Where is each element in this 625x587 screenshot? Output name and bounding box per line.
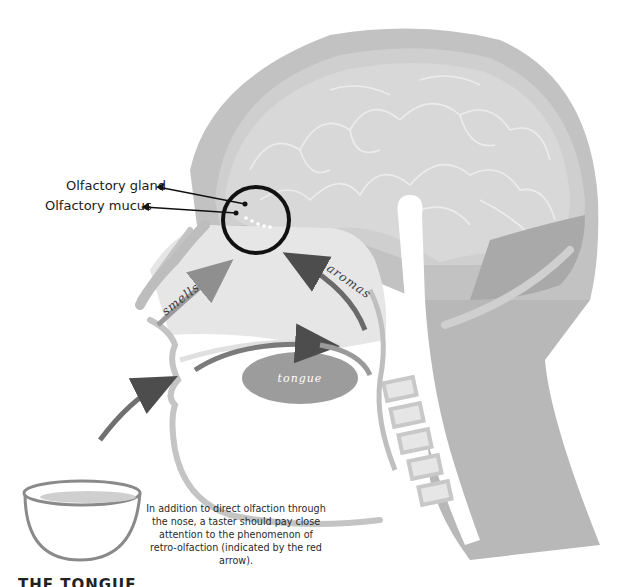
olfactory-mucus-label: Olfactory mucus	[45, 198, 152, 213]
gland-point	[243, 202, 248, 207]
olfaction-diagram: tongue smells aromas	[0, 0, 625, 587]
tasting-cup	[24, 481, 140, 560]
mucus-point	[234, 211, 239, 216]
cup-to-mouth-arrow	[100, 385, 160, 440]
olfactory-gland-label: Olfactory gland	[66, 178, 166, 193]
diagram-caption: In addition to direct olfaction through …	[146, 502, 326, 567]
tongue-label: tongue	[278, 372, 323, 385]
section-heading: THE TONGUE	[18, 578, 137, 587]
